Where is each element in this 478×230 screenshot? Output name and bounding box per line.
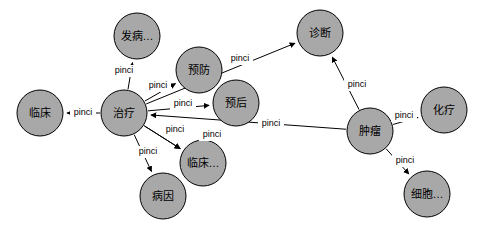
graph-node-label: 预后 (225, 97, 247, 109)
knowledge-graph-canvas: 临床治疗发病…预防预后诊断肿瘤化疗细胞…临床…病因 pincipincipinc… (0, 0, 478, 230)
edge-label: pinci (396, 155, 415, 165)
graph-node[interactable]: 诊断 (297, 10, 343, 56)
edge-label: pinci (166, 124, 185, 134)
edge-label: pinci (395, 110, 414, 120)
edge-label: pinci (74, 107, 93, 117)
graph-node-label: 预防 (188, 63, 210, 76)
graph-node[interactable]: 化疗 (421, 87, 467, 133)
graph-node-label: 肿瘤 (359, 124, 381, 137)
graph-node-label: 诊断 (309, 26, 331, 39)
graph-node-label: 病因 (152, 189, 174, 202)
edge-label: pinci (139, 146, 158, 156)
graph-node[interactable]: 预后 (213, 80, 259, 126)
graph-node-label: 临床… (187, 156, 220, 169)
graph-node-label: 发病… (121, 29, 154, 42)
edge-label: pinci (348, 79, 367, 89)
graph-node[interactable]: 细胞… (404, 171, 450, 217)
edge-label: pinci (115, 65, 134, 75)
graph-node[interactable]: 发病… (114, 13, 160, 59)
graph-node[interactable]: 肿瘤 (347, 108, 393, 154)
graph-node[interactable]: 病因 (140, 173, 186, 219)
graph-node[interactable]: 预防 (176, 47, 222, 93)
graph-node-label: 化疗 (433, 103, 455, 116)
edge-label: pinci (203, 129, 222, 139)
edge-label: pinci (149, 80, 168, 90)
graph-node-label: 治疗 (113, 106, 135, 119)
graph-node-label: 临床 (29, 106, 51, 119)
edge-label: pinci (174, 98, 193, 108)
graph-node[interactable]: 临床 (17, 90, 63, 136)
edge-label: pinci (231, 53, 250, 63)
graph-node-label: 细胞… (411, 188, 444, 200)
edge-label: pinci (262, 118, 281, 128)
graph-node[interactable]: 临床… (180, 140, 226, 186)
knowledge-graph-svg: 临床治疗发病…预防预后诊断肿瘤化疗细胞…临床…病因 pincipincipinc… (0, 0, 478, 230)
graph-node[interactable]: 治疗 (101, 90, 147, 136)
